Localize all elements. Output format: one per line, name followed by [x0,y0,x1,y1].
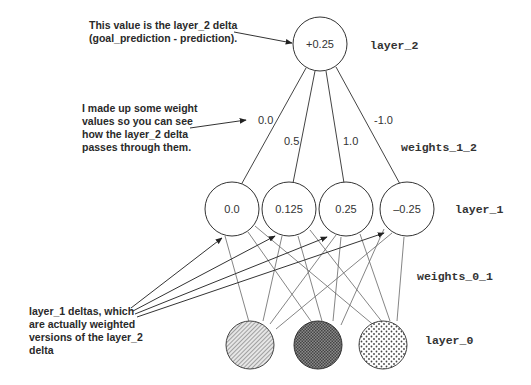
layer-2-node: +0.25 [293,17,347,71]
note-line: layer_1 deltas, which [29,305,134,317]
note-line: values so you can see [82,115,193,127]
layer-0-node-crosshatched [294,321,342,369]
weights-1-2-label: weights_1_2 [401,141,477,154]
layer-0-node-hatched [226,321,274,369]
layer-1-nodes: 0.0 0.125 0.25 –0.25 [205,182,434,236]
weights-note: I made up some weight values so you can … [82,102,198,153]
weight-value: -1.0 [374,114,393,126]
layer-1-node: 0.0 [205,182,259,236]
layer-1-node-value: 0.0 [224,203,239,215]
layer-2-node-value: +0.25 [306,38,334,50]
note-line: I made up some weight [82,102,198,114]
layer-0-node-dotted [359,321,407,369]
note-line: are actually weighted [29,318,135,330]
layer-1-node: 0.125 [262,182,316,236]
layer-1-node-value: –0.25 [393,203,421,215]
layer2-delta-note: This value is the layer_2 delta (goal_pr… [89,19,237,44]
layer1-deltas-note: layer_1 deltas, which are actually weigh… [29,305,143,356]
layer-0-label: layer_0 [425,334,473,347]
layer-2-label: layer_2 [370,39,418,52]
note-line: passes through them. [82,141,191,153]
layer-1-label: layer_1 [455,203,503,216]
note-line: versions of the layer_2 [29,331,143,343]
layer-1-node-value: 0.25 [335,203,356,215]
layer-1-node-value: 0.125 [275,203,303,215]
weights-1-2-connections [241,67,400,185]
note-line: how the layer_2 delta [82,128,188,140]
layer-1-node: 0.25 [319,182,373,236]
network-diagram: +0.25 0.0 0.125 0.25 –0.25 0.0 0.5 1.0 -… [0,0,531,385]
layer-1-node: –0.25 [380,182,434,236]
weight-value: 0.5 [284,135,299,147]
note-line: (goal_prediction - prediction). [89,32,237,44]
weight-value: 0.0 [258,114,273,126]
note-line: delta [29,344,54,356]
layer-0-nodes [226,321,407,369]
note-line: This value is the layer_2 delta [89,19,237,31]
annotation-arrows [131,32,384,317]
weights-0-1-label: weights_0_1 [417,270,493,283]
weight-value: 1.0 [343,135,358,147]
